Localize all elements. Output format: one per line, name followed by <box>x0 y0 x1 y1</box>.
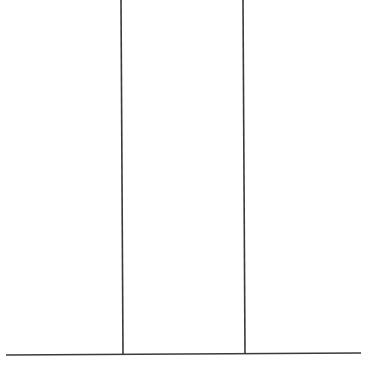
baseline-line <box>6 353 361 355</box>
vertical-left-line <box>121 0 123 355</box>
line-group <box>6 0 361 355</box>
line-drawing <box>0 0 369 370</box>
vertical-right-line <box>243 0 245 354</box>
diagram-canvas <box>0 0 369 370</box>
